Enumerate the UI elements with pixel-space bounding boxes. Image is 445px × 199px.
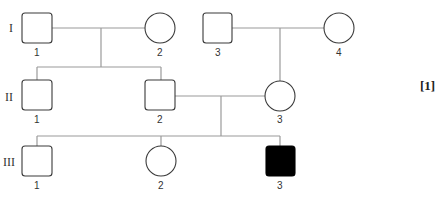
female-symbol-III-2 bbox=[146, 146, 176, 176]
pedigree-diagram: I II III 1 2 3 4 1 2 3 1 2 3 [1] bbox=[0, 0, 445, 199]
individual-number-II-1: 1 bbox=[34, 114, 40, 125]
male-symbol-I-1 bbox=[22, 13, 52, 43]
individual-number-III-2: 2 bbox=[158, 180, 164, 191]
marks-label: [1] bbox=[420, 78, 435, 93]
male-symbol-II-1 bbox=[22, 80, 52, 110]
individual-number-I-3: 3 bbox=[215, 47, 221, 58]
individual-number-II-3: 3 bbox=[277, 114, 283, 125]
individual-number-I-4: 4 bbox=[336, 47, 342, 58]
individual-number-II-2: 2 bbox=[157, 114, 163, 125]
affected-male-symbol-III-3 bbox=[266, 146, 295, 176]
generation-label-II: II bbox=[5, 90, 13, 104]
female-symbol-I-4 bbox=[324, 13, 354, 43]
male-symbol-II-2 bbox=[145, 80, 175, 110]
generation-label-I: I bbox=[9, 21, 13, 35]
individual-number-I-1: 1 bbox=[34, 47, 40, 58]
individual-number-III-1: 1 bbox=[34, 180, 40, 191]
individual-number-III-3: 3 bbox=[277, 180, 283, 191]
generation-label-III: III bbox=[3, 155, 15, 169]
male-symbol-I-3 bbox=[203, 13, 232, 43]
individual-number-I-2: 2 bbox=[157, 47, 163, 58]
female-symbol-II-3 bbox=[265, 81, 295, 111]
male-symbol-III-1 bbox=[22, 146, 52, 176]
female-symbol-I-2 bbox=[145, 13, 175, 43]
